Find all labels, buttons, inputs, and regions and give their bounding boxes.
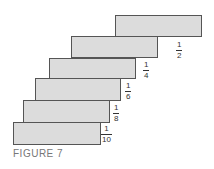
overhang-fraction-label: 12	[176, 41, 182, 60]
overhang-fraction-label: 110	[101, 125, 112, 144]
block-5	[23, 100, 110, 123]
block-4	[35, 78, 121, 101]
block-6	[13, 122, 101, 145]
figure-caption: FIGURE 7	[13, 148, 63, 159]
overhang-fraction-label: 18	[113, 104, 119, 123]
overhang-fraction-label: 16	[125, 82, 131, 101]
block-1	[115, 15, 202, 37]
overhang-fraction-label: 14	[143, 61, 149, 80]
block-3	[49, 58, 136, 79]
block-2	[71, 36, 158, 58]
